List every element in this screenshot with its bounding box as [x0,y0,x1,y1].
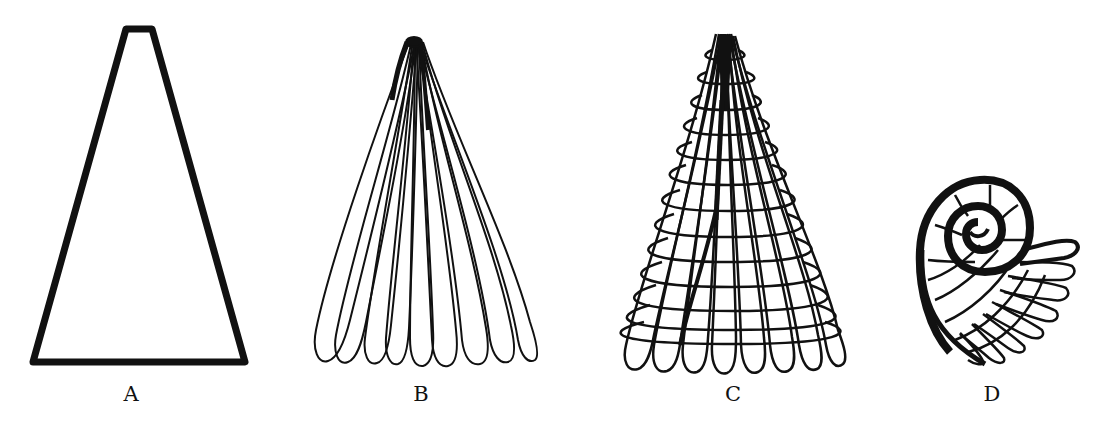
figure: A B C D [0,0,1104,422]
panel-c-cone [621,34,846,373]
panel-a-trapezoid [33,29,245,362]
figure-drawing [0,0,1104,422]
panel-b-loops [315,37,538,366]
panel-d-spiral [920,180,1078,364]
panel-label-d: D [984,382,1001,406]
panel-label-a: A [123,382,138,406]
panel-label-c: C [725,382,741,406]
panel-label-b: B [413,382,428,406]
